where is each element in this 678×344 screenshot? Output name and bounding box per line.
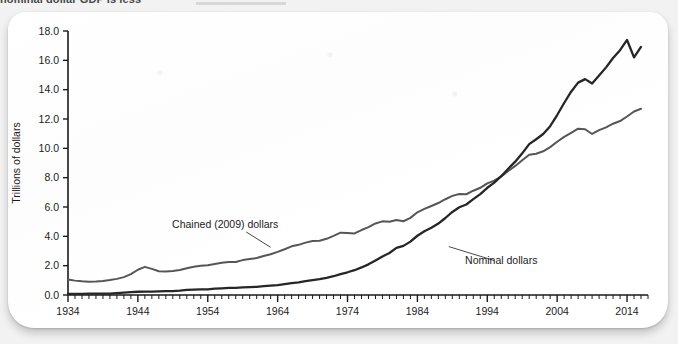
x-tick-label: 1934 xyxy=(56,305,80,317)
nominal-dollars-label: Nominal dollars xyxy=(465,254,537,266)
gdp-line-chart: 0.02.04.06.08.010.012.014.016.018.019341… xyxy=(0,0,678,344)
y-tick-label: 16.0 xyxy=(39,54,60,66)
chart-container: 0.02.04.06.08.010.012.014.016.018.019341… xyxy=(0,0,678,344)
x-tick-label: 1994 xyxy=(476,305,500,317)
y-tick-label: 10.0 xyxy=(39,142,60,154)
x-tick-label: 2014 xyxy=(615,305,639,317)
x-tick-label: 1954 xyxy=(196,305,220,317)
x-tick-label: 1944 xyxy=(126,305,150,317)
x-tick-label: 1984 xyxy=(406,305,430,317)
y-tick-label: 14.0 xyxy=(39,83,60,95)
x-tick-label: 2004 xyxy=(545,305,569,317)
y-tick-label: 0.0 xyxy=(44,289,59,301)
x-tick-label: 1974 xyxy=(336,305,360,317)
series-line-nominal xyxy=(68,40,641,294)
y-tick-label: 12.0 xyxy=(39,113,60,125)
y-axis-title: Trillions of dollars xyxy=(10,122,22,203)
y-tick-label: 2.0 xyxy=(44,259,59,271)
x-tick-label: 1964 xyxy=(266,305,290,317)
y-tick-label: 6.0 xyxy=(44,201,59,213)
y-tick-label: 18.0 xyxy=(39,25,60,37)
series-line-chained xyxy=(68,109,641,282)
chained-dollars-label: Chained (2009) dollars xyxy=(172,218,278,230)
chained-dollars-label-leader xyxy=(246,232,270,247)
y-tick-label: 8.0 xyxy=(44,171,59,183)
y-tick-label: 4.0 xyxy=(44,230,59,242)
